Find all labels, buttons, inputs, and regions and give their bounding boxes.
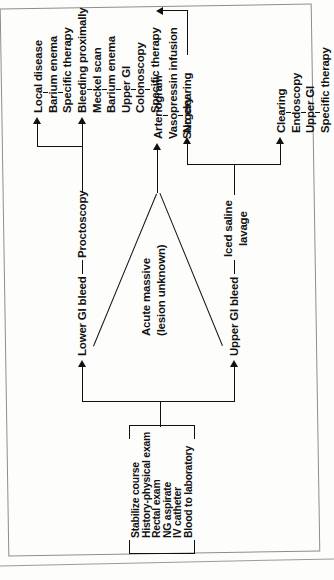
bleeding-prox-line-0: Bleeding proximally <box>75 8 90 113</box>
connector-to-lower-gi <box>82 366 83 402</box>
initial-assessment-text: Stabilize course History-physical exam R… <box>131 432 195 538</box>
local-disease-line-0: Local disease <box>31 27 46 113</box>
lavage-line-1: lavage <box>236 200 251 257</box>
tick-bp-2 <box>116 89 121 90</box>
tick-clearing-1 <box>301 112 306 113</box>
arrow-to-upper-gi <box>230 360 238 367</box>
connector-arteriogram-riser <box>163 10 188 11</box>
local-disease-line-1: Barium enema <box>46 27 61 113</box>
bleeding-prox-line-1: Meckel scan <box>90 8 105 113</box>
tick-clearing-2 <box>315 112 320 113</box>
connector-proctoscopy-out <box>82 147 83 193</box>
connector-lower-to-proctoscopy <box>82 260 83 274</box>
tick-local-0 <box>43 92 48 93</box>
arrow-to-bleeding-proximally <box>78 117 86 124</box>
tick-art-0 <box>163 115 168 116</box>
bleeding-prox-line-3: Upper GI <box>119 8 134 113</box>
tick-bp-1 <box>102 89 107 90</box>
arteriogram-line-1: Vasopressin infusion <box>166 27 181 139</box>
iced-saline-lavage-label: Iced saline lavage <box>221 200 250 257</box>
connector-to-upper-gi <box>234 366 235 402</box>
arteriogram-line-2: Surgery <box>180 27 195 139</box>
clearing-line-1: Endoscopy <box>289 47 304 133</box>
tick-art-1 <box>178 115 183 116</box>
connector-to-no-clearing <box>187 143 188 165</box>
acute-massive-label: Acute massive (lesion unknown) <box>139 245 168 336</box>
flowchart-canvas: Stabilize course History-physical exam R… <box>11 12 311 568</box>
lower-gi-bleed-label: Lower GI bleed <box>76 276 89 356</box>
acute-line-0: Acute massive <box>139 245 154 336</box>
arrow-acute-to-arteriogram <box>153 143 161 150</box>
connector-box-stem <box>160 402 161 427</box>
arteriogram-line-0: Arteriogram <box>151 27 166 139</box>
tick-clearing-0 <box>286 112 291 113</box>
bleeding-prox-line-4: Colonoscopy <box>133 8 148 113</box>
arrow-to-lower-gi <box>78 360 86 367</box>
clearing-line-3: Specific therapy <box>318 47 333 133</box>
upper-gi-bleed-label: Upper GI bleed <box>228 277 241 356</box>
local-disease-line-2: Specific therapy <box>60 27 75 113</box>
connector-upper-to-acute <box>159 193 223 346</box>
lavage-line-0: Iced saline <box>221 200 236 257</box>
arrow-to-local-disease <box>33 117 41 124</box>
connector-box-split <box>82 401 234 402</box>
tick-bp-3 <box>131 89 136 90</box>
initial-line-5: Blood to laboratory <box>184 432 195 538</box>
acute-line-1: (lesion unknown) <box>154 245 169 336</box>
connector-proctoscopy-riser <box>37 146 83 147</box>
tick-bp-4 <box>145 89 150 90</box>
bleeding-prox-line-2: Barium enema <box>104 8 119 113</box>
initial-box-left-bracket <box>129 540 195 554</box>
clearing-line-2: Upper GI <box>303 47 318 133</box>
clearing-line-0: Clearing <box>274 47 289 133</box>
connector-upper-to-lavage <box>234 260 235 274</box>
clearing-stack: Clearing Endoscopy Upper GI Specific the… <box>274 47 332 133</box>
proctoscopy-label: Proctoscopy <box>76 191 89 258</box>
tick-local-1 <box>58 92 63 93</box>
initial-line-0: Stabilize course <box>131 432 142 538</box>
bleeding-proximally-stack: Bleeding proximally Meckel scan Barium e… <box>75 8 162 113</box>
arrow-no-clearing-up <box>156 7 163 15</box>
connector-acute-to-arteriogram <box>157 149 158 193</box>
connector-lavage-split <box>187 164 281 165</box>
connector-to-bleeding-proximally <box>82 123 83 147</box>
connector-to-clearing <box>280 143 281 165</box>
connector-to-local-disease <box>37 123 38 147</box>
arrow-to-clearing <box>276 137 284 144</box>
arteriogram-stack: Arteriogram Vasopressin infusion Surgery <box>151 27 195 139</box>
connector-lavage-out <box>234 165 235 195</box>
tick-bp-0 <box>87 89 92 90</box>
local-disease-stack: Local disease Barium enema Specific ther… <box>31 27 75 113</box>
